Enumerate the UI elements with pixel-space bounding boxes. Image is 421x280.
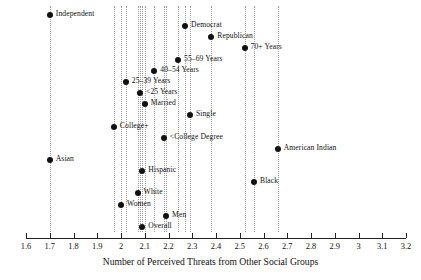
x-tick-label: 3.2	[401, 242, 411, 251]
x-tick-label: 3	[356, 242, 360, 251]
gridline-2.19	[166, 6, 167, 232]
x-tick	[335, 233, 336, 238]
point-marker-icon	[175, 57, 181, 63]
x-tick	[97, 233, 98, 238]
point-marker-icon	[275, 146, 281, 152]
point-marker-icon	[47, 12, 53, 18]
point-label: Single	[196, 108, 216, 120]
gridline-2.18	[164, 6, 165, 232]
x-tick	[406, 233, 407, 238]
x-tick	[192, 233, 193, 238]
point-marker-icon	[142, 101, 148, 107]
x-tick	[264, 233, 265, 238]
x-tick	[359, 233, 360, 238]
point-label: Married	[151, 97, 176, 109]
point-marker-icon	[208, 34, 214, 40]
x-tick	[26, 233, 27, 238]
x-tick	[74, 233, 75, 238]
x-tick	[287, 233, 288, 238]
x-tick	[382, 233, 383, 238]
x-tick-label: 1.9	[92, 242, 102, 251]
plot-area: IndependentDemocratRepublican70+ Years55…	[0, 0, 421, 232]
x-tick-label: 2.8	[306, 242, 316, 251]
point-label: <College Degree	[170, 131, 223, 143]
x-tick-label: 1.8	[68, 242, 78, 251]
gridline-2.24	[178, 6, 179, 232]
x-axis-title: Number of Perceived Threats from Other S…	[0, 256, 421, 267]
x-tick	[169, 233, 170, 238]
x-tick-label: 3.1	[377, 242, 387, 251]
x-tick-label: 1.7	[45, 242, 55, 251]
point-marker-icon	[151, 68, 157, 74]
point-marker-icon	[182, 23, 188, 29]
x-tick-label: 2.1	[140, 242, 150, 251]
point-marker-icon	[187, 112, 193, 118]
x-tick-label: 2	[119, 242, 123, 251]
point-marker-icon	[163, 213, 169, 219]
point-label: American Indian	[284, 142, 337, 154]
x-tick-label: 1.6	[21, 242, 31, 251]
point-marker-icon	[47, 157, 53, 163]
point-label: Men	[172, 209, 186, 221]
x-axis-line	[26, 238, 406, 239]
gridline-2.66	[278, 6, 279, 232]
point-marker-icon	[137, 90, 143, 96]
point-label: Hispanic	[148, 164, 176, 176]
x-tick-label: 2.6	[258, 242, 268, 251]
x-tick-label: 2.2	[163, 242, 173, 251]
point-label: Overall	[148, 220, 171, 232]
point-marker-icon	[251, 179, 257, 185]
x-tick-label: 2.5	[235, 242, 245, 251]
point-label: Women	[127, 198, 151, 210]
x-tick-label: 2.7	[282, 242, 292, 251]
point-label: Republican	[217, 30, 253, 42]
point-marker-icon	[161, 135, 167, 141]
point-marker-icon	[242, 45, 248, 51]
gridline-2.56	[254, 6, 255, 232]
gridline-1.97	[114, 6, 115, 232]
x-tick	[311, 233, 312, 238]
x-tick	[121, 233, 122, 238]
x-tick	[216, 233, 217, 238]
point-marker-icon	[123, 79, 129, 85]
x-tick	[145, 233, 146, 238]
point-label: 70+ Years	[251, 41, 282, 53]
point-label: Asian	[56, 153, 74, 165]
x-tick	[240, 233, 241, 238]
x-tick	[50, 233, 51, 238]
gridline-2.27	[185, 6, 186, 232]
point-label: Black	[260, 175, 278, 187]
point-label: College+	[120, 120, 149, 132]
gridline-1.7	[50, 6, 51, 232]
point-label: Independent	[56, 8, 95, 20]
perceived-threats-dot-chart: IndependentDemocratRepublican70+ Years55…	[0, 0, 421, 280]
x-tick-label: 2.4	[211, 242, 221, 251]
x-tick-label: 2.3	[187, 242, 197, 251]
point-marker-icon	[111, 124, 117, 130]
point-marker-icon	[118, 202, 124, 208]
x-tick-label: 2.9	[330, 242, 340, 251]
gridline-2.29	[190, 6, 191, 232]
